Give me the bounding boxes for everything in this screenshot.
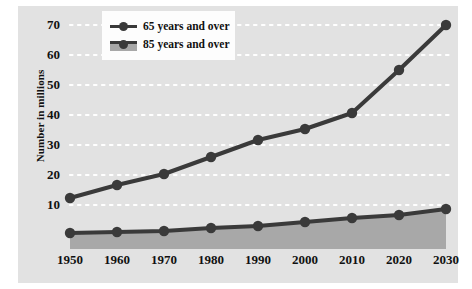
x-tick-label-1970: 1970	[138, 252, 190, 268]
data-point	[112, 180, 122, 190]
legend-label-85-and-over: 85 years and over	[143, 38, 230, 50]
x-tick-label-1950: 1950	[44, 252, 96, 268]
plot-area: Number in millions 70 60 50 40 30 20 10 …	[18, 6, 458, 283]
x-tick-label-1990: 1990	[232, 252, 284, 268]
y-tick-label-50: 50	[26, 77, 60, 93]
chart-panel: Number in millions 70 60 50 40 30 20 10 …	[18, 6, 458, 283]
data-point	[394, 210, 404, 220]
data-point	[300, 217, 310, 227]
legend-swatch-band-icon	[110, 38, 137, 51]
y-tick-label-70: 70	[26, 17, 60, 33]
data-point	[253, 221, 263, 231]
data-point	[347, 213, 357, 223]
legend-item-85-and-over: 85 years and over	[110, 35, 223, 53]
data-point	[65, 193, 75, 203]
x-tick-label-1960: 1960	[91, 252, 143, 268]
y-tick-label-40: 40	[26, 107, 60, 123]
data-point	[159, 226, 169, 236]
data-point	[206, 152, 216, 162]
data-point	[65, 228, 75, 238]
data-point	[300, 124, 310, 134]
line-chart-svg	[18, 6, 458, 283]
x-tick-label-2020: 2020	[373, 252, 425, 268]
data-point	[441, 204, 451, 214]
data-point	[253, 135, 263, 145]
legend-swatch-line-icon	[110, 20, 137, 33]
x-tick-label-1980: 1980	[185, 252, 237, 268]
x-tick-label-2030: 2030	[420, 252, 472, 268]
data-point	[112, 227, 122, 237]
data-point	[206, 223, 216, 233]
y-tick-label-60: 60	[26, 47, 60, 63]
chart-page: Number in millions 70 60 50 40 30 20 10 …	[0, 0, 472, 289]
legend-label-65-and-over: 65 years and over	[143, 20, 230, 32]
legend-item-65-and-over: 65 years and over	[110, 17, 223, 35]
data-point	[394, 65, 404, 75]
y-tick-label-10: 10	[26, 197, 60, 213]
data-point	[441, 20, 451, 30]
x-tick-label-2000: 2000	[279, 252, 331, 268]
y-tick-label-30: 30	[26, 137, 60, 153]
chart-legend: 65 years and over 85 years and over	[102, 11, 235, 60]
y-tick-label-20: 20	[26, 167, 60, 183]
data-point	[159, 169, 169, 179]
data-point	[347, 108, 357, 118]
x-tick-label-2010: 2010	[326, 252, 378, 268]
